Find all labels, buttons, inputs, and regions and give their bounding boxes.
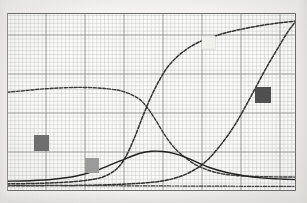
marker-light-top bbox=[202, 36, 215, 49]
figure-container bbox=[0, 0, 307, 203]
scan-edge-right bbox=[296, 0, 307, 203]
scan-edge-left bbox=[0, 0, 8, 203]
scan-edge-top bbox=[0, 0, 307, 13]
marker-mid-lower bbox=[85, 158, 99, 173]
marker-dark-left bbox=[34, 135, 49, 151]
chart-svg bbox=[7, 13, 296, 191]
marker-dark-right bbox=[255, 87, 271, 103]
plot-area bbox=[7, 13, 296, 191]
grid-minor bbox=[7, 13, 296, 191]
scan-edge-bottom bbox=[0, 191, 307, 203]
